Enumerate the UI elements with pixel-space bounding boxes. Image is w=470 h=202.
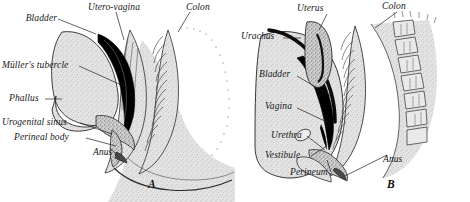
uterus <box>305 22 332 88</box>
label-colon: Colon <box>186 3 210 13</box>
label-urogenital-sinus: Urogenital sinus <box>2 118 67 128</box>
label-anus: Anus <box>383 155 402 165</box>
panel-b: Uterus Colon Urachus Bladder Vagina Uret… <box>235 0 470 202</box>
label-vestibule: Vestibule <box>265 151 300 161</box>
label-colon: Colon <box>382 2 406 12</box>
label-anus: Anus <box>93 148 112 158</box>
leader-colon <box>178 12 190 32</box>
label-mullers-tubercle: Müller's tubercle <box>2 61 68 71</box>
leader-utero-vagina <box>116 12 124 40</box>
label-utero-vagina: Utero-vagina <box>88 3 140 13</box>
label-perineum: Perineum <box>290 168 328 178</box>
panel-letter-b: B <box>387 178 395 190</box>
label-perineal-body: Perineal body <box>14 133 69 143</box>
figure-page: Bladder Utero-vagina Colon Müller's tube… <box>0 0 470 202</box>
label-urethra: Urethra <box>271 131 302 141</box>
panel-letter-a: A <box>148 178 156 190</box>
label-bladder: Bladder <box>259 70 290 80</box>
label-urachus: Urachus <box>241 32 274 42</box>
label-phallus: Phallus <box>9 94 39 104</box>
label-uterus: Uterus <box>297 4 323 14</box>
leader-anus <box>345 155 387 176</box>
label-bladder: Bladder <box>2 14 57 24</box>
panel-a: Bladder Utero-vagina Colon Müller's tube… <box>0 0 235 202</box>
label-vagina: Vagina <box>265 102 292 112</box>
